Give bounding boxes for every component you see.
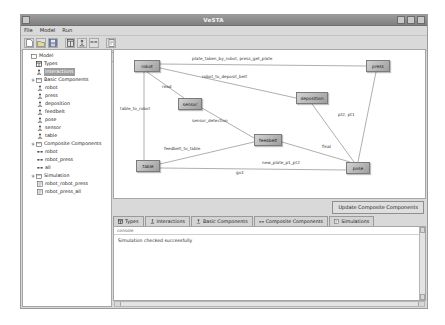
window-menu-button[interactable] bbox=[22, 16, 30, 24]
tab-bar: Types Interactions Basic Components bbox=[113, 215, 426, 226]
tree-item-composite-all[interactable]: all bbox=[25, 164, 111, 172]
edge-label: plate_taken_by_robot, press_get_plate bbox=[192, 56, 272, 61]
folder-icon bbox=[36, 173, 42, 179]
title-bar: VeSTA bbox=[21, 15, 427, 26]
model-tree: Model Types Interactio bbox=[23, 50, 111, 196]
tree-item-table[interactable]: table bbox=[25, 132, 111, 140]
tab-interactions[interactable]: Interactions bbox=[145, 216, 191, 226]
tree-group-basic-components[interactable]: 9 Basic Components bbox=[25, 76, 111, 84]
scroll-left-arrow-icon[interactable] bbox=[115, 302, 121, 306]
new-file-icon[interactable] bbox=[24, 38, 34, 48]
edge-label: sensor_detection bbox=[192, 118, 228, 123]
edge-label: feedbelt_to_table bbox=[164, 146, 200, 151]
composite-components-icon bbox=[259, 219, 264, 224]
window-title: VeSTA bbox=[31, 15, 396, 25]
tree-item-deposition[interactable]: deposition bbox=[25, 100, 111, 108]
graph-node-press[interactable]: press bbox=[366, 60, 390, 72]
tab-label: Composite Components bbox=[266, 219, 323, 224]
interaction-graph-canvas[interactable]: robot press deposition sensor feedbelt bbox=[113, 49, 426, 199]
graph-node-robot[interactable]: robot bbox=[134, 60, 160, 72]
tree-item-simulation-robot-press-all[interactable]: robot_press_all bbox=[25, 188, 111, 196]
interactions-icon[interactable] bbox=[77, 38, 87, 48]
save-disk-icon[interactable] bbox=[48, 38, 58, 48]
simulations-icon[interactable] bbox=[106, 38, 116, 48]
console-horizontal-scrollbar[interactable] bbox=[114, 301, 425, 307]
tree-root[interactable]: Model bbox=[25, 52, 111, 60]
tree-item-label: feedbelt bbox=[45, 108, 65, 116]
tree-item-pose[interactable]: pose bbox=[25, 116, 111, 124]
graph-node-deposition[interactable]: deposition bbox=[296, 92, 328, 104]
composite-icon bbox=[37, 149, 43, 155]
tree-item-simulation-robot-robot-press[interactable]: robot_robot_press bbox=[25, 180, 111, 188]
tree-item-label: all bbox=[45, 164, 51, 172]
types-icon bbox=[118, 219, 123, 224]
graph-node-sensor[interactable]: sensor bbox=[178, 98, 202, 110]
tree-group-label: Simulation bbox=[44, 172, 70, 180]
basic-components-icon bbox=[196, 219, 201, 224]
graph-node-table[interactable]: table bbox=[136, 160, 160, 172]
tree-root-label: Model bbox=[39, 52, 53, 60]
menu-file[interactable]: File bbox=[24, 26, 33, 35]
graph-node-pose[interactable]: pose bbox=[346, 162, 370, 174]
graph-node-feedbelt[interactable]: feedbelt bbox=[254, 134, 282, 146]
interactions-icon bbox=[36, 69, 42, 75]
tree-group-simulation[interactable]: 9 Simulation bbox=[25, 172, 111, 180]
component-icon bbox=[37, 93, 43, 99]
types-icon bbox=[36, 61, 42, 67]
tree-item-label: deposition bbox=[45, 100, 70, 108]
tree-item-label: robot bbox=[45, 148, 58, 156]
tree-group-composite-components[interactable]: 9 Composite Components bbox=[25, 140, 111, 148]
composite-icon bbox=[37, 165, 43, 171]
tree-item-composite-robot-press[interactable]: robot_press bbox=[25, 156, 111, 164]
tree-item-label: Interactions bbox=[44, 68, 75, 76]
edge-label: pt2, pt1 bbox=[338, 112, 355, 117]
tree-item-types[interactable]: Types bbox=[25, 60, 111, 68]
scroll-right-arrow-icon[interactable] bbox=[418, 302, 424, 306]
model-root-icon bbox=[31, 53, 37, 59]
graph-node-label: deposition bbox=[301, 96, 324, 101]
menu-model[interactable]: Model bbox=[40, 26, 56, 35]
components-icon[interactable] bbox=[89, 38, 99, 48]
graph-node-label: sensor bbox=[183, 102, 198, 107]
menu-run[interactable]: Run bbox=[62, 26, 72, 35]
graph-node-label: press bbox=[372, 64, 384, 69]
composite-icon bbox=[37, 157, 43, 163]
tab-composite-components[interactable]: Composite Components bbox=[254, 216, 328, 226]
tab-simulations[interactable]: Simulations bbox=[329, 216, 374, 226]
console-vertical-scrollbar[interactable] bbox=[419, 227, 425, 300]
tree-item-label: Types bbox=[44, 60, 58, 68]
tree-item-interactions[interactable]: Interactions bbox=[25, 68, 111, 76]
console-panel[interactable]: console Simulation checked successfully bbox=[113, 226, 426, 301]
tab-label: Interactions bbox=[157, 219, 186, 224]
graph-node-label: feedbelt bbox=[259, 138, 277, 143]
tree-item-robot[interactable]: robot bbox=[25, 84, 111, 92]
types-icon[interactable] bbox=[65, 38, 75, 48]
tab-basic-components[interactable]: Basic Components bbox=[191, 216, 253, 226]
tab-label: Basic Components bbox=[203, 219, 248, 224]
tree-item-composite-robot[interactable]: robot bbox=[25, 148, 111, 156]
tree-item-press[interactable]: press bbox=[25, 92, 111, 100]
component-icon bbox=[37, 101, 43, 107]
component-icon bbox=[37, 117, 43, 123]
tree-group-label: Composite Components bbox=[44, 140, 101, 148]
scroll-down-arrow-icon[interactable] bbox=[420, 294, 425, 300]
interactions-icon bbox=[150, 219, 155, 224]
tree-item-feedbelt[interactable]: feedbelt bbox=[25, 108, 111, 116]
folder-icon bbox=[36, 141, 42, 147]
component-icon bbox=[37, 85, 43, 91]
model-tree-panel[interactable]: Model Types Interactio bbox=[22, 49, 112, 307]
edge-label: new_plate_p1_pt2 bbox=[262, 160, 300, 165]
tree-item-sensor[interactable]: sensor bbox=[25, 124, 111, 132]
update-composite-components-button[interactable]: Update Composite Components bbox=[332, 201, 424, 214]
open-folder-icon[interactable] bbox=[36, 38, 46, 48]
maximize-button[interactable] bbox=[407, 16, 415, 24]
tree-item-label: sensor bbox=[45, 124, 61, 132]
minimize-button[interactable] bbox=[397, 16, 405, 24]
desktop: VeSTA File Model Run bbox=[0, 0, 445, 325]
graph-area[interactable]: robot press deposition sensor feedbelt bbox=[114, 50, 425, 198]
tab-types[interactable]: Types bbox=[113, 216, 144, 226]
simulations-icon bbox=[334, 219, 339, 224]
close-button[interactable] bbox=[417, 16, 425, 24]
edge-label: table_to_robot bbox=[120, 106, 150, 111]
scroll-up-arrow-icon[interactable] bbox=[420, 227, 425, 233]
